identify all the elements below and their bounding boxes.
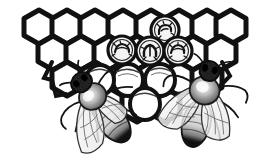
capped-brood-cell: [136, 37, 164, 65]
open-cell: [130, 88, 160, 120]
capped-brood-cell: [108, 36, 136, 64]
bee-honeycomb-illustration: [0, 0, 267, 163]
capped-brood-cell: [164, 37, 192, 65]
illustration-root: Honeycomb with Two Honey Bees: [0, 0, 267, 163]
